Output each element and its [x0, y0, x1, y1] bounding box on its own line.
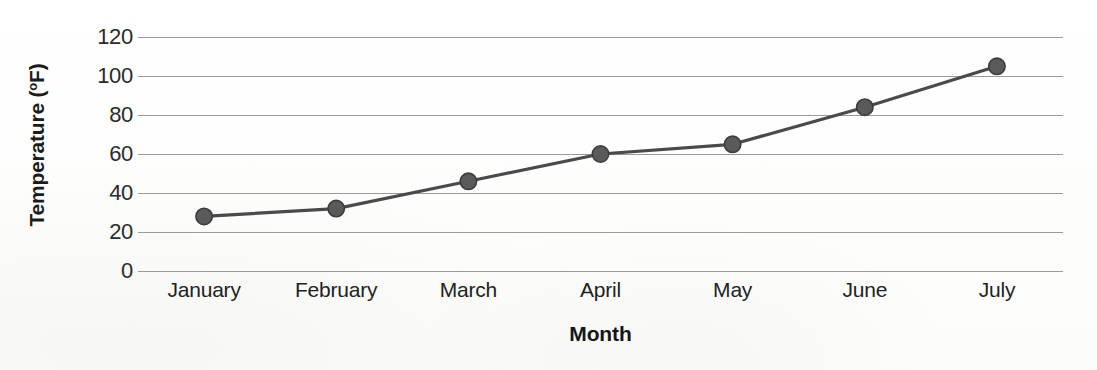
y-axis-tick-label: 60	[58, 141, 133, 167]
series-line	[204, 66, 997, 216]
x-axis-tick-label: January	[167, 278, 240, 302]
y-axis-title-tail: F)	[25, 63, 48, 82]
x-axis-tick-label: March	[440, 278, 497, 302]
data-point-marker	[196, 208, 212, 224]
data-point-marker	[724, 136, 740, 152]
data-point-marker	[989, 58, 1005, 74]
x-axis-title: Month	[138, 322, 1063, 346]
data-point-marker	[592, 146, 608, 162]
x-axis-tick-labels: JanuaryFebruaryMarchAprilMayJuneJuly	[138, 278, 1063, 310]
y-axis-tick-label: 20	[58, 219, 133, 245]
degree-symbol: o	[25, 83, 40, 91]
y-axis-tick-label: 40	[58, 180, 133, 206]
data-point-marker	[328, 200, 344, 216]
y-axis-tick-label: 80	[58, 102, 133, 128]
y-axis-title-text: Temperature (oF)	[25, 63, 49, 226]
data-point-marker	[460, 173, 476, 189]
y-axis-tick-label: 120	[58, 24, 133, 50]
x-axis-tick-label: July	[979, 278, 1016, 302]
y-axis-title-main: Temperature (	[25, 91, 48, 227]
plot-area	[138, 37, 1063, 271]
temperature-line-chart: Temperature (oF) 120100806040200 January…	[0, 0, 1097, 370]
y-axis-tick-labels: 120100806040200	[58, 0, 133, 370]
y-axis-tick-label: 0	[58, 258, 133, 284]
y-axis-tick-label: 100	[58, 63, 133, 89]
data-point-marker	[857, 99, 873, 115]
x-axis-tick-label: February	[295, 278, 377, 302]
x-axis-tick-label: April	[580, 278, 621, 302]
gridline	[138, 271, 1063, 272]
x-axis-tick-label: June	[842, 278, 887, 302]
series-line-group	[138, 37, 1063, 271]
x-axis-tick-label: May	[713, 278, 752, 302]
